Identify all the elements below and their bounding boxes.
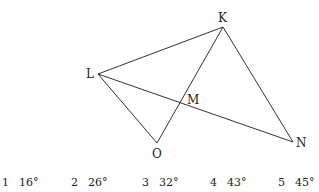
answer-option-5[interactable]: 545° [278,176,315,189]
segment-KN [223,27,293,142]
answer-option-1[interactable]: 116° [2,176,39,189]
option-number: 4 [210,176,217,189]
segment-LK [98,27,223,74]
answer-option-3[interactable]: 332° [142,176,179,189]
option-number: 2 [71,176,78,189]
point-label-O: O [152,148,162,160]
option-value: 16° [19,176,39,189]
option-number: 1 [2,176,9,189]
option-number: 5 [278,176,285,189]
answer-option-2[interactable]: 226° [71,176,108,189]
point-label-N: N [296,137,307,149]
point-label-M: M [187,94,199,106]
point-label-K: K [218,12,227,24]
option-number: 3 [142,176,149,189]
option-value: 26° [88,176,108,189]
point-label-L: L [86,68,94,80]
option-value: 45° [295,176,315,189]
geometry-figure [0,0,319,192]
segment-OK [157,27,223,143]
option-value: 32° [159,176,179,189]
option-value: 43° [227,176,247,189]
answer-option-4[interactable]: 443° [210,176,247,189]
